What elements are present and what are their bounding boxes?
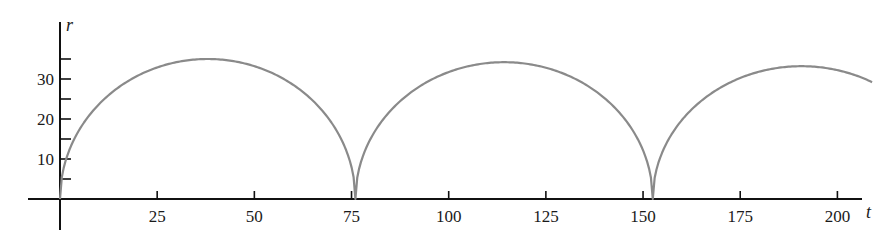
x-tick-label: 175	[727, 207, 753, 226]
x-tick-label: 150	[630, 207, 656, 226]
x-tick-label: 125	[533, 207, 559, 226]
line-chart: 255075100125150175200102030 t r	[0, 0, 892, 235]
x-tick-label: 75	[343, 207, 360, 226]
axes	[28, 22, 862, 230]
y-axis-label: r	[66, 15, 74, 35]
tick-labels: 255075100125150175200102030	[37, 70, 850, 226]
x-tick-label: 200	[825, 207, 851, 226]
series-line	[60, 59, 872, 199]
ticks	[60, 59, 837, 199]
x-axis-label: t	[866, 202, 872, 222]
x-tick-label: 50	[246, 207, 263, 226]
data-series	[60, 59, 872, 199]
chart-container: 255075100125150175200102030 t r	[0, 0, 892, 235]
y-tick-label: 30	[37, 70, 54, 89]
y-tick-label: 20	[37, 110, 54, 129]
y-tick-label: 10	[37, 150, 54, 169]
x-tick-label: 25	[149, 207, 166, 226]
x-tick-label: 100	[436, 207, 462, 226]
